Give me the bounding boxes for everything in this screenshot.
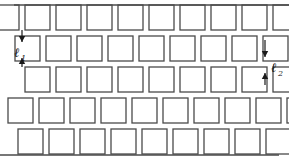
grid-cell (118, 5, 143, 30)
l2-subscript-label: 2 (277, 69, 283, 78)
grid-cell (25, 5, 50, 30)
grid-cell (263, 36, 288, 61)
grid-cell (70, 98, 95, 123)
grid-cell (111, 129, 136, 154)
grid-cell (194, 98, 219, 123)
grid-cell (25, 67, 50, 92)
grid-cell (149, 67, 174, 92)
grid-cell (39, 98, 64, 123)
grid-cell (180, 5, 205, 30)
l1-subscript-label: 1 (21, 54, 26, 63)
grid-cell (204, 129, 229, 154)
grid-cell (108, 36, 133, 61)
grid-cell (18, 129, 43, 154)
grid-cell (87, 67, 112, 92)
grid-cell (149, 5, 174, 30)
grid-cell (56, 5, 81, 30)
grid-cell (242, 5, 267, 30)
grid-cell (201, 36, 226, 61)
l1-symbol-label: ℓ (14, 45, 20, 60)
grid-cell (180, 67, 205, 92)
grid-cell (273, 5, 289, 30)
grid-cell (56, 67, 81, 92)
grid-cell (46, 36, 71, 61)
grid-cell (173, 129, 198, 154)
grid-cell (170, 36, 195, 61)
grid-cell (8, 98, 33, 123)
grid-cell (87, 5, 112, 30)
grid-cell (142, 129, 167, 154)
grid-cell (101, 98, 126, 123)
l2-symbol-label: ℓ (271, 60, 277, 75)
grid-cell (80, 129, 105, 154)
grid-cell (242, 67, 267, 92)
grid-cell (163, 98, 188, 123)
grid-cell (139, 36, 164, 61)
grid-cell (256, 98, 281, 123)
grid-cell (287, 98, 289, 123)
grid-cell (211, 67, 236, 92)
grid-cell (235, 129, 260, 154)
grid-cell (232, 36, 257, 61)
grid-cell (77, 36, 102, 61)
figure-container: ℓ 1 ℓ 2 (0, 0, 289, 162)
grid-cell (118, 67, 143, 92)
grid-cell (211, 5, 236, 30)
grid-cell (132, 98, 157, 123)
grid-cell (0, 5, 19, 30)
grid-cell (266, 129, 289, 154)
cell-grid-layer (0, 5, 289, 154)
grid-cell (49, 129, 74, 154)
l1-arrow-head-top (19, 36, 25, 42)
square-grid-diagram: ℓ 1 ℓ 2 (0, 0, 289, 162)
grid-cell (225, 98, 250, 123)
